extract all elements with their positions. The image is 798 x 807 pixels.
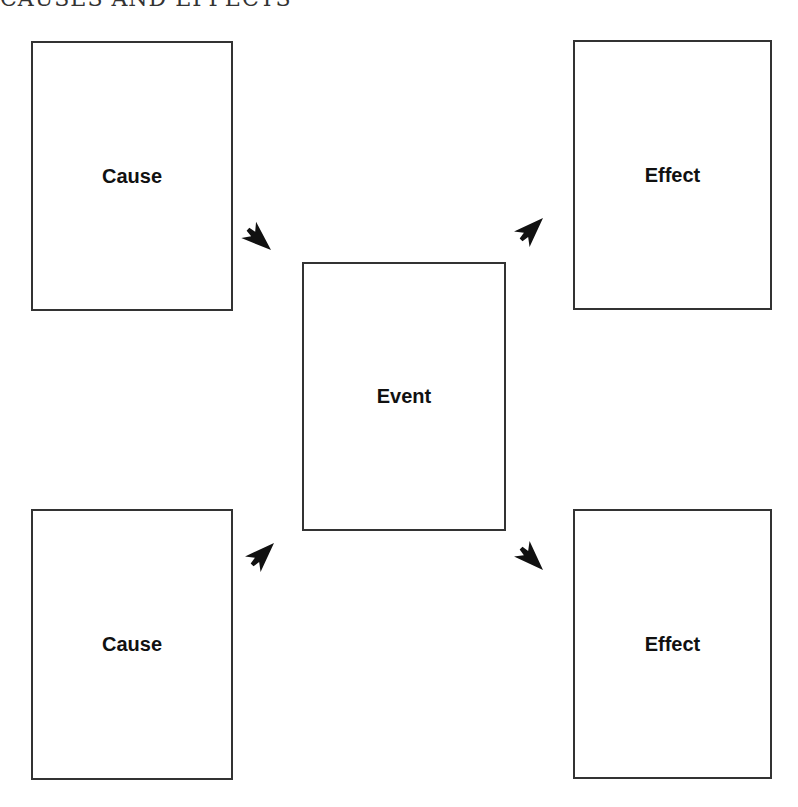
- arrow-down-right-icon: [513, 540, 550, 577]
- arrow-up-right-icon: [244, 535, 281, 572]
- arrow-up-right-icon: [513, 210, 550, 247]
- arrow-down-right-icon: [241, 221, 279, 258]
- arrows-layer: [0, 0, 798, 807]
